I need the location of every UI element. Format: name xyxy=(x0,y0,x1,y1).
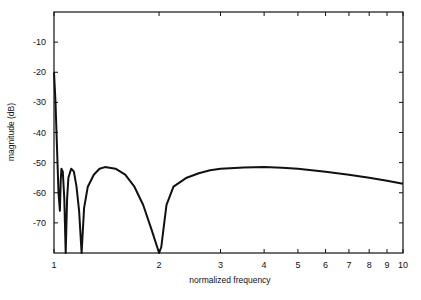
x-tick-label: 9 xyxy=(385,260,390,270)
y-tick-label: -40 xyxy=(33,128,46,138)
x-tick-label: 8 xyxy=(367,260,372,270)
y-tick-label: -50 xyxy=(33,158,46,168)
y-axis-title: magnitude (dB) xyxy=(6,103,16,161)
chart: -10-20-30-40-50-60-70 12345678910 normal… xyxy=(0,0,421,300)
y-tick-label: -10 xyxy=(33,37,46,47)
x-tick-label: 5 xyxy=(295,260,300,270)
x-tick-label: 10 xyxy=(398,260,408,270)
y-axis-tick-labels: -10-20-30-40-50-60-70 xyxy=(33,37,46,228)
x-axis-ticks xyxy=(54,12,403,253)
x-axis-tick-labels: 12345678910 xyxy=(51,260,408,270)
y-tick-label: -70 xyxy=(33,218,46,228)
x-tick-label: 7 xyxy=(346,260,351,270)
x-tick-label: 4 xyxy=(262,260,267,270)
x-tick-label: 3 xyxy=(218,260,223,270)
x-tick-label: 1 xyxy=(51,260,56,270)
y-tick-label: -60 xyxy=(33,188,46,198)
magnitude-curve xyxy=(54,72,403,253)
plot-frame xyxy=(54,12,403,253)
x-axis-title: normalized frequency xyxy=(189,275,271,285)
y-tick-label: -20 xyxy=(33,67,46,77)
y-axis-ticks xyxy=(54,42,403,223)
x-tick-label: 2 xyxy=(157,260,162,270)
x-tick-label: 6 xyxy=(323,260,328,270)
y-tick-label: -30 xyxy=(33,97,46,107)
